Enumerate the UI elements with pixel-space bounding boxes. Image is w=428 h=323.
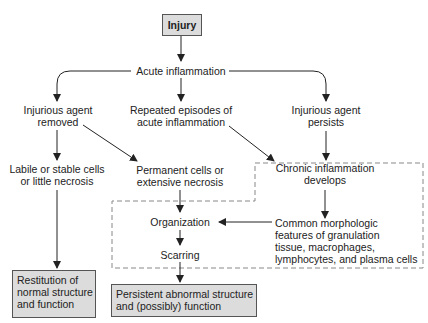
agent-removed-label: Injurious agentremoved xyxy=(14,104,102,128)
labile-cells-label: Labile or stable cellsor little necrosis xyxy=(3,163,111,187)
restitution-box: Restitution ofnormal structureand functi… xyxy=(12,270,96,318)
persistent-abnormal-box: Persistent abnormal structureand (possib… xyxy=(111,284,257,317)
repeated-episodes-label: Repeated episodes ofacute inflammation xyxy=(127,104,235,128)
agent-persists-label: Injurious agentpersists xyxy=(282,104,370,128)
scarring-label: Scarring xyxy=(150,249,210,261)
acute-inflammation-label: Acute inflammation xyxy=(132,65,230,77)
permanent-cells-label: Permanent cells orextensive necrosis xyxy=(130,164,230,188)
chronic-inflammation-label: Chronic inflammationdevelops xyxy=(270,162,380,186)
organization-label: Organization xyxy=(145,216,215,228)
injury-box: Injury xyxy=(162,14,202,36)
inflammation-outcome-diagram: Injury Acute inflammation Injurious agen… xyxy=(0,0,428,323)
morphologic-features-label: Common morphologicfeatures of granulatio… xyxy=(275,217,417,265)
